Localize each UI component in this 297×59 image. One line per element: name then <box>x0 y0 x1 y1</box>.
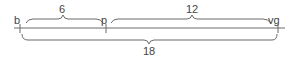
brace-b-vg <box>22 34 277 44</box>
length-label-18: 18 <box>143 45 155 57</box>
brace-p-vg <box>111 15 271 23</box>
diagram-canvas: b p vg 6 12 18 <box>0 0 297 59</box>
point-label-b: b <box>14 14 20 26</box>
length-label-12: 12 <box>186 3 198 15</box>
point-label-p: p <box>101 14 107 26</box>
length-label-6: 6 <box>59 3 65 15</box>
segment-diagram: b p vg 6 12 18 <box>0 0 297 59</box>
brace-b-p <box>26 15 103 23</box>
point-label-vg: vg <box>268 14 280 26</box>
